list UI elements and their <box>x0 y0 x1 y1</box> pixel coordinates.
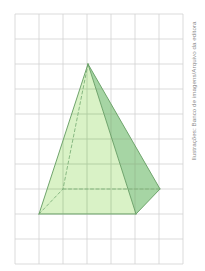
image-credit-caption: Ilustrações: Banco de imagens/Arquivo da… <box>190 22 197 161</box>
pyramid-diagram <box>0 0 205 271</box>
pyramid-figure: Ilustrações: Banco de imagens/Arquivo da… <box>0 0 205 271</box>
